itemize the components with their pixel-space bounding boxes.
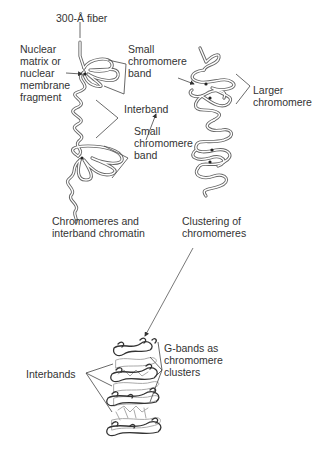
- left-chromatin-fiber: [67, 42, 122, 222]
- clustering-arrow: [145, 248, 193, 336]
- chromosome-banding-diagram: 300-Å fiber Nuclear matrix or nuclear me…: [0, 0, 324, 471]
- right-chromatin-fiber: [190, 48, 234, 196]
- leader-lines-bottom: [86, 342, 162, 412]
- caption-clustering: Clustering of chromomeres: [182, 215, 246, 239]
- label-interband: Interband: [124, 103, 168, 115]
- label-g-bands: G-bands as chromomere clusters: [164, 342, 223, 378]
- attachment-point-bottom: [80, 156, 83, 159]
- label-small-chromomere-band-bottom: Small chromomere band: [134, 125, 193, 161]
- attachment-point-top: [83, 72, 86, 75]
- condensed-chromosome: [107, 338, 161, 435]
- label-larger-chromomere: Larger chromomere: [253, 84, 312, 108]
- label-small-chromomere-band-top: Small chromomere band: [128, 43, 187, 79]
- label-interbands: Interbands: [26, 368, 76, 380]
- label-300a-fiber: 300-Å fiber: [56, 12, 107, 24]
- label-nuclear-matrix: Nuclear matrix or nuclear membrane fragm…: [20, 43, 70, 103]
- caption-chromomeres-interband: Chromomeres and interband chromatin: [52, 215, 145, 239]
